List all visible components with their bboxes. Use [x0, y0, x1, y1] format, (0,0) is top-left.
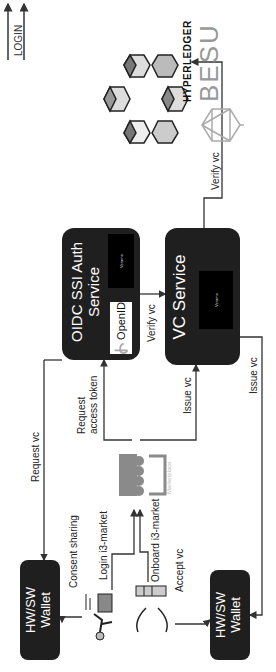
marketplace-label: Marketplace — [166, 461, 172, 494]
wallet-login-line2: Wallet — [38, 560, 53, 660]
edge-label-onboard-i3market: Onboard i3-market — [150, 499, 162, 582]
wallet-onboard-line1: HW/SW — [213, 570, 228, 660]
oidc-ssi-auth-service-box: OIDC SSI Auth Service OpenID Veramo — [62, 228, 140, 360]
oidc-title-line1: OIDC SSI Auth — [68, 232, 85, 352]
edge-label-issue-vc-market: Issue vc — [182, 377, 194, 414]
marketplace-icon — [115, 450, 171, 500]
edge-label-verify-vc-chain: Verify vc — [210, 152, 222, 190]
legend-login: LOGIN — [13, 25, 25, 56]
edge-label-issue-vc-wallet: Issue vc — [248, 357, 260, 394]
request-access-token-line2: access token — [88, 376, 100, 434]
edge-label-accept-vc: Accept vc — [174, 549, 186, 592]
user-shopping-icon — [84, 588, 124, 644]
diagram-canvas: ONBOARDING LOGIN HYPERLEDGER BESU OIDC — [0, 0, 276, 672]
edge-label-login-i3market: Login i3-market — [98, 511, 110, 580]
edge-label-request-access-token: Request access token — [76, 376, 100, 434]
openid-logo: OpenID — [110, 302, 132, 354]
edge-label-verify-vc-oidc: Verify vc — [146, 304, 158, 342]
veramo-label: Veramo — [214, 293, 219, 307]
openid-icon — [113, 343, 129, 354]
hyperledger-label: HYPERLEDGER — [182, 20, 193, 102]
oidc-title-line2: Service — [85, 232, 102, 352]
wallet-onboard-line2: Wallet — [228, 570, 243, 660]
hw-sw-wallet-login-box: HW/SW Wallet — [20, 560, 60, 660]
request-access-token-line1: Request — [76, 376, 88, 434]
besu-label: BESU — [196, 23, 222, 102]
edge-label-request-vc: Request vc — [30, 432, 42, 482]
hw-sw-wallet-onboard-box: HW/SW Wallet — [210, 570, 250, 660]
vc-service-title: VC Service — [171, 237, 188, 357]
cube-network-icon — [100, 53, 192, 145]
vc-service-box: VC Service Veramo — [165, 228, 240, 365]
edge-label-consent-sharing: Consent sharing — [68, 515, 80, 588]
veramo-logo: Veramo — [199, 271, 233, 329]
besu-logo-icon — [200, 105, 244, 145]
onboarding-hands-icon — [130, 580, 174, 636]
veramo-label: Veramo — [119, 254, 124, 268]
openid-label: OpenID — [115, 302, 127, 340]
wallet-login-line1: HW/SW — [23, 560, 38, 660]
veramo-logo: Veramo — [108, 234, 134, 288]
